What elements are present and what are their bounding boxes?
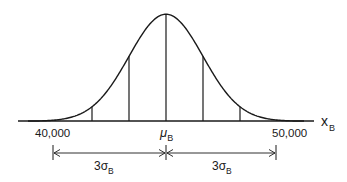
x-axis-variable-label: xB: [321, 113, 335, 133]
tick-label-mean: μB: [159, 125, 173, 143]
dimension-label-right: 3σB: [212, 159, 232, 176]
tick-label-50000: 50,000: [272, 127, 307, 139]
dimension-label-left: 3σB: [94, 159, 114, 176]
normal-distribution-figure: xB 40,000 μB 50,000 3σB 3σB: [0, 0, 347, 182]
tick-label-40000: 40,000: [35, 127, 70, 139]
dimension-arrow-right: [167, 150, 275, 157]
bell-curve-diagram: xB 40,000 μB 50,000 3σB 3σB: [0, 0, 347, 182]
dimension-arrow-left: [54, 150, 165, 157]
sigma-lines: [55, 14, 277, 121]
